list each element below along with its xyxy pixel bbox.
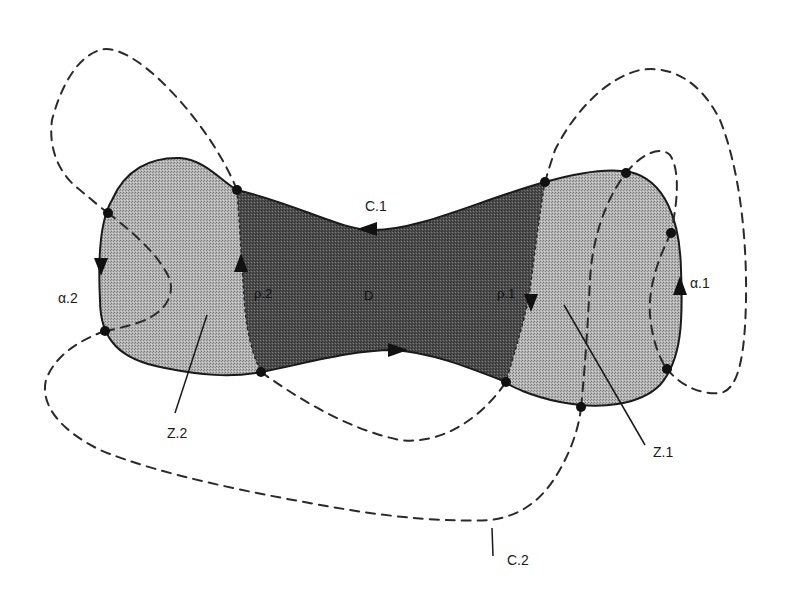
diagram-canvas: C.1 D ρ.2 ρ.1 α.2 α.1 Z.2 Z.1 C.2 bbox=[0, 0, 786, 598]
label-rho2: ρ.2 bbox=[254, 286, 272, 301]
diagram-svg: C.1 D ρ.2 ρ.1 α.2 α.1 Z.2 Z.1 C.2 bbox=[0, 0, 786, 598]
label-d: D bbox=[364, 288, 373, 303]
point-icon bbox=[666, 228, 676, 238]
point-icon bbox=[621, 168, 631, 178]
point-icon bbox=[501, 377, 511, 387]
label-c2: C.2 bbox=[507, 552, 529, 568]
label-c1: C.1 bbox=[365, 198, 387, 214]
point-icon bbox=[576, 402, 586, 412]
point-icon bbox=[100, 326, 110, 336]
label-rho1: ρ.1 bbox=[497, 286, 515, 301]
point-icon bbox=[256, 367, 266, 377]
label-z2: Z.2 bbox=[167, 425, 187, 441]
label-alpha1: α.1 bbox=[690, 275, 710, 291]
label-alpha2: α.2 bbox=[58, 290, 78, 306]
point-icon bbox=[103, 208, 113, 218]
point-icon bbox=[662, 364, 672, 374]
shape-fill bbox=[0, 0, 786, 598]
leader-c2 bbox=[492, 528, 493, 556]
label-z1: Z.1 bbox=[653, 444, 673, 460]
point-icon bbox=[540, 177, 550, 187]
point-icon bbox=[232, 185, 242, 195]
